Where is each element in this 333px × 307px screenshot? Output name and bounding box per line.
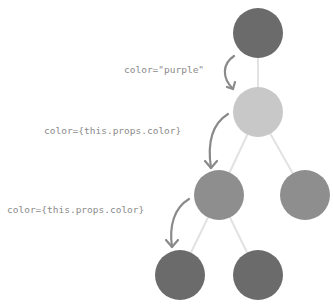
- tree-node-root: [233, 8, 283, 58]
- tree-node-grandchild-right: [280, 170, 330, 220]
- tree-node-child: [233, 87, 283, 137]
- tree-nodes: [155, 8, 330, 300]
- component-tree-diagram: [0, 0, 333, 307]
- curved-arrow-icon: [166, 199, 189, 247]
- curved-arrow-icon: [205, 114, 228, 168]
- tree-node-leaf-left: [155, 250, 205, 300]
- prop-label-root: color="purple": [124, 64, 204, 76]
- tree-node-leaf-right: [233, 250, 283, 300]
- tree-node-grandchild-left: [194, 170, 244, 220]
- curved-arrow-icon: [225, 56, 235, 89]
- prop-label-grandchild: color={this.props.color}: [7, 204, 144, 216]
- prop-label-child: color={this.props.color}: [44, 125, 181, 137]
